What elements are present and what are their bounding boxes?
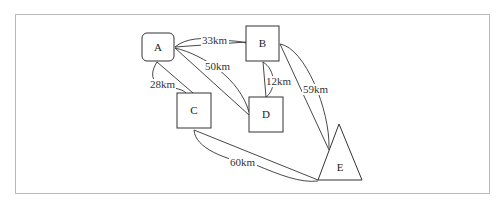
node-e[interactable]: E <box>318 124 362 180</box>
node-c[interactable]: C <box>177 93 211 128</box>
node-b[interactable]: B <box>246 26 279 61</box>
edge-label-c-e: 60km <box>230 156 256 168</box>
edge-label-a-d: 50km <box>205 60 231 72</box>
edge-a-c: 28km <box>149 62 193 93</box>
edge-b-d: 12km <box>263 62 292 97</box>
graph-canvas: 33km 28km 50km 12km 59km 60km A <box>0 0 503 205</box>
edge-label-b-e: 59km <box>303 83 329 95</box>
edge-label-a-c: 28km <box>150 78 176 90</box>
node-label-b: B <box>259 37 266 49</box>
node-label-e: E <box>337 161 344 173</box>
node-label-c: C <box>190 104 197 116</box>
edge-label-a-b: 33km <box>202 34 228 46</box>
node-label-a: A <box>154 41 162 53</box>
edge-b-e: 59km <box>280 44 329 150</box>
node-d[interactable]: D <box>249 97 283 132</box>
node-a[interactable]: A <box>142 33 174 61</box>
edge-label-b-d: 12km <box>266 75 292 87</box>
node-label-d: D <box>262 108 270 120</box>
edge-c-e: 60km <box>194 130 318 181</box>
edge-a-b: 33km <box>175 34 246 47</box>
